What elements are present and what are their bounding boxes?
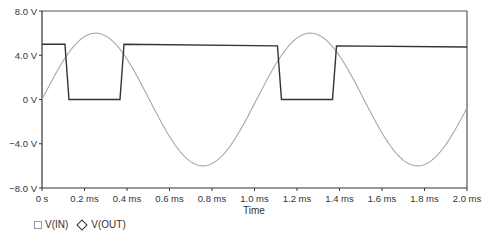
legend: V(IN) V(OUT): [34, 219, 126, 230]
y-tick-label: 4.0 V: [15, 50, 38, 61]
legend-label: V(OUT): [91, 219, 125, 230]
legend-label: V(IN): [45, 219, 68, 230]
diamond-marker-icon: [77, 219, 88, 230]
x-tick-label: 1.8 ms: [410, 193, 439, 204]
x-axis: 0 s0.2 ms0.4 ms0.6 ms0.8 ms1.0 ms1.2 ms1…: [36, 188, 482, 204]
x-tick-label: 1.0 ms: [240, 193, 269, 204]
x-tick-label: 0.4 ms: [113, 193, 142, 204]
x-axis-title: Time: [243, 205, 265, 216]
y-tick-label: −8.0 V: [9, 183, 37, 194]
square-marker-icon: [34, 221, 42, 229]
x-tick-label: 0.6 ms: [155, 193, 184, 204]
x-tick-label: 0 s: [36, 193, 49, 204]
y-axis: 8.0 V4.0 V0 V−4.0 V−8.0 V: [9, 6, 42, 194]
x-tick-label: 1.6 ms: [368, 193, 397, 204]
x-tick-label: 2.0 ms: [453, 193, 482, 204]
x-tick-label: 0.8 ms: [198, 193, 227, 204]
legend-item-vin: V(IN): [34, 219, 68, 230]
x-tick-label: 1.4 ms: [325, 193, 354, 204]
series-layer: [42, 33, 467, 166]
legend-item-vout: V(OUT): [76, 219, 125, 230]
series-vout: [42, 44, 467, 99]
chart: 8.0 V4.0 V0 V−4.0 V−8.0 V 0 s0.2 ms0.4 m…: [0, 0, 486, 241]
y-tick-label: 8.0 V: [15, 6, 38, 17]
x-tick-label: 1.2 ms: [283, 193, 312, 204]
y-tick-label: −4.0 V: [9, 138, 37, 149]
y-tick-label: 0 V: [23, 94, 38, 105]
x-tick-label: 0.2 ms: [70, 193, 99, 204]
